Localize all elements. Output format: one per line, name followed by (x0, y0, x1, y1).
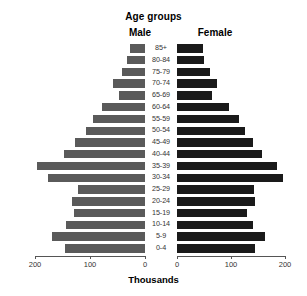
pyramid-row: 50-54 (0, 125, 307, 137)
age-group-label: 30-34 (145, 172, 177, 182)
male-bar (127, 56, 145, 64)
male-bar (72, 197, 145, 205)
age-group-label: 45-49 (145, 137, 177, 147)
age-group-label: 80-84 (145, 55, 177, 65)
male-bar (119, 91, 145, 99)
female-bar (177, 56, 204, 64)
age-group-label: 70-74 (145, 78, 177, 88)
pyramid-row: 55-59 (0, 114, 307, 126)
age-group-label: 40-44 (145, 149, 177, 159)
age-group-label: 5-9 (145, 231, 177, 241)
pyramid-rows: 85+80-8475-7970-7465-6960-6455-5950-5445… (0, 43, 307, 255)
female-bar (177, 209, 247, 217)
age-group-label: 50-54 (145, 125, 177, 135)
pyramid-row: 70-74 (0, 78, 307, 90)
age-group-label: 15-19 (145, 208, 177, 218)
female-bar (177, 68, 210, 76)
age-group-label: 60-64 (145, 102, 177, 112)
female-axis-0-tick-label: 0 (162, 260, 192, 269)
male-axis-100-tick (90, 256, 91, 259)
male-bar (64, 150, 145, 158)
female-bar (177, 44, 203, 52)
pyramid-row: 35-39 (0, 161, 307, 173)
male-bar (86, 127, 145, 135)
female-bar (177, 221, 253, 229)
age-group-label: 10-14 (145, 219, 177, 229)
male-bar (102, 103, 145, 111)
age-group-label: 85+ (145, 43, 177, 53)
female-bar (177, 150, 262, 158)
male-axis-200-tick (35, 256, 36, 259)
female-bar (177, 162, 277, 170)
male-bar (37, 162, 145, 170)
male-axis-0-tick (145, 256, 146, 259)
pyramid-row: 80-84 (0, 55, 307, 67)
age-group-label: 35-39 (145, 161, 177, 171)
female-series-label: Female (180, 27, 250, 38)
female-axis-100-tick-label: 100 (216, 260, 246, 269)
pyramid-row: 30-34 (0, 172, 307, 184)
female-axis-200-tick (285, 256, 286, 259)
pyramid-row: 10-14 (0, 219, 307, 231)
male-bar (74, 209, 146, 217)
female-bar (177, 127, 245, 135)
age-group-label: 0-4 (145, 243, 177, 253)
male-bar (78, 185, 145, 193)
male-bar (66, 221, 145, 229)
male-bar (93, 115, 145, 123)
pyramid-row: 20-24 (0, 196, 307, 208)
female-bar (177, 91, 212, 99)
pyramid-row: 15-19 (0, 208, 307, 220)
pyramid-row: 0-4 (0, 243, 307, 255)
x-axis-title: Thousands (0, 274, 307, 285)
female-bar (177, 115, 239, 123)
female-bar (177, 138, 253, 146)
male-bar (48, 174, 145, 182)
female-bar (177, 244, 255, 252)
female-axis-200-tick-label: 200 (270, 260, 300, 269)
female-bar (177, 185, 254, 193)
female-bar (177, 174, 283, 182)
male-axis-100-tick-label: 100 (75, 260, 105, 269)
female-bar (177, 103, 229, 111)
age-group-label: 75-79 (145, 67, 177, 77)
age-group-label: 55-59 (145, 114, 177, 124)
female-bar (177, 79, 217, 87)
age-group-label: 20-24 (145, 196, 177, 206)
population-pyramid-chart: Age groups Male Female 85+80-8475-7970-7… (0, 0, 307, 296)
female-axis-0-tick (177, 256, 178, 259)
male-series-label: Male (105, 27, 175, 38)
male-bar (122, 68, 145, 76)
pyramid-row: 65-69 (0, 90, 307, 102)
pyramid-row: 5-9 (0, 231, 307, 243)
male-bar (75, 138, 145, 146)
pyramid-row: 60-64 (0, 102, 307, 114)
male-bar (113, 79, 145, 87)
male-bar (65, 244, 145, 252)
male-axis-0-tick-label: 0 (130, 260, 160, 269)
male-axis-200-tick-label: 200 (20, 260, 50, 269)
pyramid-row: 75-79 (0, 67, 307, 79)
male-bar (52, 232, 146, 240)
female-bar (177, 197, 255, 205)
age-group-label: 65-69 (145, 90, 177, 100)
pyramid-row: 45-49 (0, 137, 307, 149)
pyramid-row: 25-29 (0, 184, 307, 196)
female-axis-100-tick (231, 256, 232, 259)
age-group-label: 25-29 (145, 184, 177, 194)
male-bar (130, 44, 145, 52)
chart-title: Age groups (0, 11, 307, 22)
female-bar (177, 232, 265, 240)
pyramid-row: 40-44 (0, 149, 307, 161)
pyramid-row: 85+ (0, 43, 307, 55)
